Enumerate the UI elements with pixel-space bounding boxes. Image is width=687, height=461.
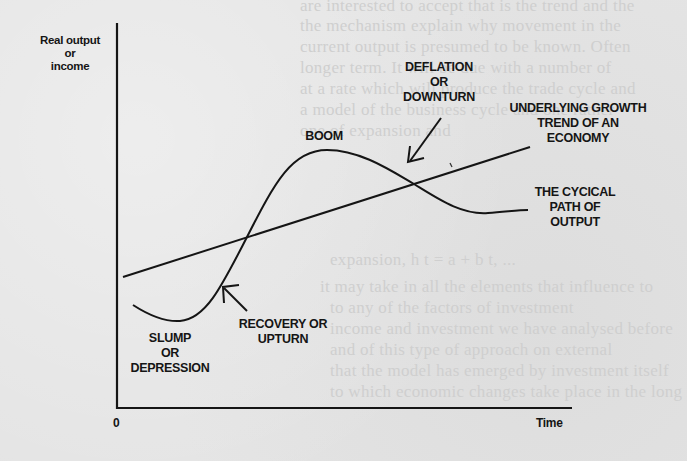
recovery-label-line: RECOVERY OR bbox=[228, 317, 338, 332]
origin-label: 0 bbox=[113, 416, 119, 431]
recovery-label: RECOVERY OR UPTURN bbox=[228, 317, 338, 347]
deflation-label: DEFLATION OR DOWNTURN bbox=[384, 60, 494, 105]
trend-label-line: UNDERLYING GROWTH bbox=[498, 101, 658, 116]
slump-label-line: SLUMP bbox=[124, 331, 216, 346]
y-axis-label-line: Real output bbox=[30, 34, 110, 47]
x-axis-label: Time bbox=[536, 416, 563, 431]
boom-label-line: BOOM bbox=[300, 129, 348, 144]
recovery-label-line: UPTURN bbox=[228, 332, 338, 347]
cyclical-label-line: OUTPUT bbox=[520, 215, 630, 230]
deflation-label-line: DEFLATION bbox=[384, 60, 494, 75]
cyclical-label-line: PATH OF bbox=[520, 200, 630, 215]
deflation-arrow-icon bbox=[408, 118, 441, 162]
recovery-arrow-icon bbox=[223, 285, 247, 311]
stray-mark bbox=[450, 163, 452, 167]
trend-label-line: ECONOMY bbox=[498, 131, 658, 146]
scanned-page: are interested to accept that is the tre… bbox=[0, 0, 687, 461]
trend-label: UNDERLYING GROWTH TREND OF AN ECONOMY bbox=[498, 101, 658, 146]
cyclical-label: THE CYCICAL PATH OF OUTPUT bbox=[520, 185, 630, 230]
slump-label-line: DEPRESSION bbox=[124, 361, 216, 376]
y-axis-label-line: or bbox=[30, 47, 110, 60]
y-axis-label-line: income bbox=[30, 60, 110, 73]
deflation-label-line: OR bbox=[384, 75, 494, 90]
y-axis-label: Real output or income bbox=[30, 34, 110, 73]
trend-label-line: TREND OF AN bbox=[498, 116, 658, 131]
boom-label: BOOM bbox=[300, 129, 348, 144]
deflation-label-line: DOWNTURN bbox=[384, 90, 494, 105]
slump-label: SLUMP OR DEPRESSION bbox=[124, 331, 216, 376]
cyclical-curve bbox=[133, 150, 528, 321]
slump-label-line: OR bbox=[124, 346, 216, 361]
cyclical-label-line: THE CYCICAL bbox=[520, 185, 630, 200]
